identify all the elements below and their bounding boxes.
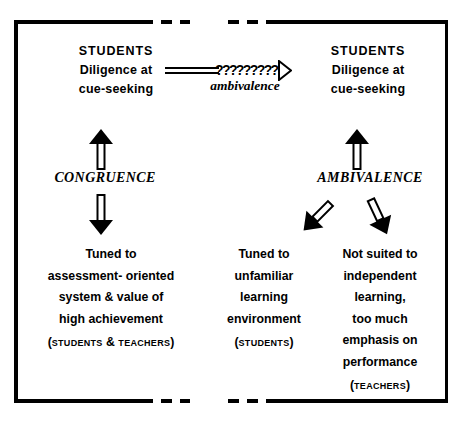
outcome-mid-actor-students: Students — [239, 335, 290, 349]
students-left-line2: Diligence at — [48, 61, 184, 80]
connector-label: ambivalence — [193, 78, 297, 94]
outcome-node-middle: Tuned to unfamiliar learning environment… — [212, 244, 316, 354]
relation-label-ambivalence: AMBIVALENCE — [290, 170, 450, 186]
outcome-mid-actors-suffix: ) — [289, 335, 293, 349]
frame-bottom-border-left-solid — [14, 399, 142, 403]
outcome-left-line-2: system & value of — [20, 287, 202, 309]
outcome-right-line-0: Not suited to — [320, 244, 440, 266]
arrow-down-icon-left — [88, 194, 114, 236]
students-right-title: STUDENTS — [300, 42, 436, 61]
outcome-right-actors-suffix: ) — [406, 378, 410, 392]
outcome-left-line-0: Tuned to — [20, 244, 202, 266]
frame-top-border-left-dashes — [142, 20, 190, 24]
arrow-up-icon-left — [88, 128, 114, 170]
students-node-left: STUDENTS Diligence at cue-seeking — [48, 42, 184, 99]
frame-bottom-border-right-dashes — [228, 399, 276, 403]
outcome-mid-actors: (Students) — [212, 332, 316, 354]
outcome-mid-line-2: learning — [212, 287, 316, 309]
frame-bottom-border-left-dashes — [142, 399, 190, 403]
students-left-line3: cue-seeking — [48, 80, 184, 99]
outcome-node-right: Not suited to independent learning, too … — [320, 244, 440, 397]
students-node-right: STUDENTS Diligence at cue-seeking — [300, 42, 436, 99]
frame-bottom-border-right-solid — [276, 399, 448, 403]
outcome-mid-line-3: environment — [212, 309, 316, 331]
students-left-title: STUDENTS — [48, 42, 184, 61]
outcome-left-actor-teachers: Teachers — [118, 335, 170, 349]
relation-label-congruence: CONGRUENCE — [25, 170, 185, 186]
outcome-left-actors: (Students & Teachers) — [20, 332, 202, 354]
outcome-right-actors: (Teachers) — [320, 375, 440, 397]
outcome-left-line-3: high achievement — [20, 309, 202, 331]
arrow-down-left-icon — [296, 196, 338, 238]
outcome-right-line-1: independent — [320, 266, 440, 288]
outcome-left-actors-join: & — [103, 335, 119, 349]
frame-top-border-right-solid — [276, 20, 448, 24]
outcome-right-line-5: performance — [320, 352, 440, 374]
outcome-left-actors-suffix: ) — [170, 335, 174, 349]
students-right-line3: cue-seeking — [300, 80, 436, 99]
outcome-right-line-4: emphasis on — [320, 330, 440, 352]
frame-top-border-left-solid — [14, 20, 142, 24]
frame-top-border-right-dashes — [228, 20, 276, 24]
students-right-line2: Diligence at — [300, 61, 436, 80]
ambivalence-connector-arrow: ?????????? ambivalence — [165, 60, 297, 94]
outcome-left-line-1: assessment- oriented — [20, 266, 202, 288]
outcome-mid-line-1: unfamiliar — [212, 266, 316, 288]
arrow-up-icon-right — [344, 128, 370, 170]
outcome-right-line-2: learning, — [320, 287, 440, 309]
outcome-right-actor-teachers: Teachers — [354, 378, 406, 392]
outcome-node-left: Tuned to assessment- oriented system & v… — [20, 244, 202, 354]
outcome-mid-line-0: Tuned to — [212, 244, 316, 266]
outcome-right-line-3: too much — [320, 309, 440, 331]
outcome-left-actor-students: Students — [52, 335, 103, 349]
connector-shaft — [165, 67, 219, 74]
connector-question-marks: ?????????? — [215, 61, 285, 79]
arrow-down-right-icon — [358, 196, 400, 238]
